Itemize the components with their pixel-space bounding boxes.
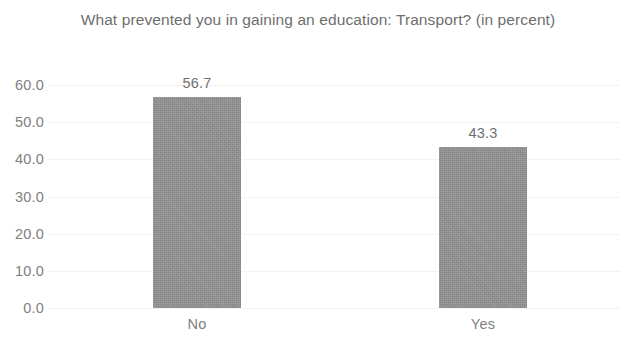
gridline (48, 308, 620, 309)
y-tick-label: 40.0 (0, 151, 44, 167)
x-tick-label-yes: Yes (471, 316, 495, 332)
y-tick-label: 50.0 (0, 114, 44, 130)
y-tick-label: 30.0 (0, 189, 44, 205)
x-tick-label-no: No (188, 316, 207, 332)
y-tick-label: 10.0 (0, 263, 44, 279)
bar-yes[interactable] (439, 147, 527, 308)
gridline (48, 234, 620, 235)
y-axis: 0.010.020.030.040.050.060.0 (0, 0, 44, 340)
plot-area: 56.743.3 (48, 85, 620, 308)
y-tick-label: 60.0 (0, 77, 44, 93)
gridline (48, 122, 620, 123)
gridline (48, 159, 620, 160)
bar-chart: What prevented you in gaining an educati… (0, 0, 636, 340)
gridline (48, 197, 620, 198)
gridline (48, 271, 620, 272)
gridline (48, 85, 620, 86)
bar-value-label-no: 56.7 (182, 75, 211, 91)
chart-title: What prevented you in gaining an educati… (60, 8, 576, 31)
y-tick-label: 20.0 (0, 226, 44, 242)
bar-no[interactable] (153, 97, 241, 308)
y-tick-label: 0.0 (0, 300, 44, 316)
bar-value-label-yes: 43.3 (468, 125, 497, 141)
